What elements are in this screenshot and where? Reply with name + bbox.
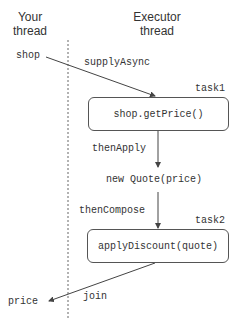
task1-label: task1 xyxy=(195,83,225,94)
price-label: price xyxy=(8,296,38,307)
task2-box-text: applyDiscount(quote) xyxy=(98,241,218,252)
task1-box: shop.getPrice() xyxy=(88,97,229,131)
task1-box-text: shop.getPrice() xyxy=(113,109,203,120)
new-quote-label: new Quote(price) xyxy=(106,174,202,185)
your-thread-header-line1: Your xyxy=(8,10,52,24)
task2-label: task2 xyxy=(195,215,225,226)
join-label: join xyxy=(83,291,107,302)
executor-thread-header: Executor thread xyxy=(127,10,187,38)
your-thread-header-line2: thread xyxy=(8,24,52,38)
executor-thread-header-line2: thread xyxy=(127,24,187,38)
executor-thread-header-line1: Executor xyxy=(127,10,187,24)
supply-async-label: supplyAsync xyxy=(84,57,150,68)
your-thread-header: Your thread xyxy=(8,10,52,38)
task2-box: applyDiscount(quote) xyxy=(87,229,229,263)
then-compose-label: thenCompose xyxy=(79,205,145,216)
then-apply-label: thenApply xyxy=(92,143,146,154)
shop-label: shop xyxy=(16,50,40,61)
